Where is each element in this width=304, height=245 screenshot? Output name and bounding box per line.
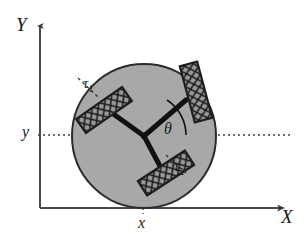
theta-angle-label: θ xyxy=(164,120,172,138)
tau2-label: τ2 xyxy=(174,158,184,177)
hub-joint xyxy=(141,133,147,139)
y-axis-label: Y xyxy=(16,14,27,36)
tau1-label: τ1 xyxy=(83,75,93,94)
tau2-subscript: 2 xyxy=(179,167,184,177)
y-coordinate-label: y xyxy=(22,123,29,141)
tau1-subscript: 1 xyxy=(88,84,93,94)
diagram-canvas xyxy=(0,0,304,245)
x-coordinate-label: x xyxy=(138,214,145,232)
robot-kinematics-figure: Y X x y θ τ1 τ2 xyxy=(0,0,304,245)
x-axis-label: X xyxy=(281,206,293,228)
